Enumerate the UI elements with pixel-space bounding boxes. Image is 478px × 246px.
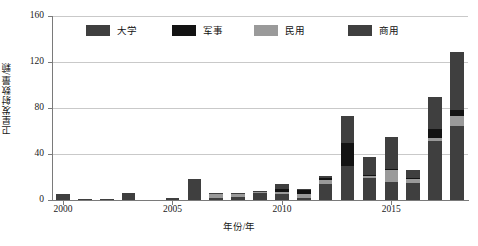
legend-label: 民用 [285,25,305,36]
bar-segment [385,182,399,200]
bar-segment [209,193,223,194]
bar-segment [253,191,267,192]
y-tick-mark [48,154,52,155]
bar-group [450,16,464,200]
bar-group [144,16,158,200]
bar-segment [188,179,202,180]
bar-group [406,16,420,200]
bar-segment [428,129,442,138]
bar-segment [450,110,464,116]
bar-segment [406,178,420,179]
bar-segment [231,194,245,196]
bar-group [231,16,245,200]
bar-segment [428,141,442,200]
bar-segment [385,169,399,170]
bar-segment [406,170,420,178]
bar-segment [209,194,223,197]
bar-segment [253,192,267,193]
bar-segment [275,192,289,194]
bar-group [209,16,223,200]
x-tick-label: 2015 [382,204,401,214]
bar-group [385,16,399,200]
x-axis-title: 年份/年 [0,219,478,233]
bar-segment [428,138,442,141]
y-tick-mark [48,16,52,17]
bar-segment [319,180,333,183]
bar-segment [385,137,399,169]
bar-group [275,16,289,200]
bar-segment [363,176,377,178]
y-tick-mark [48,108,52,109]
y-tick-mark [48,200,52,201]
bar-segment [363,157,377,174]
y-tick-label: 0 [14,195,44,205]
bar-segment [450,116,464,126]
bar-group [100,16,114,200]
bar-segment [363,178,377,200]
bar-group [363,16,377,200]
y-axis-line [52,16,53,201]
y-axis-title: 卫星发射数量/颗 [2,62,14,135]
chart-legend: 大学军事民用商用 [86,23,426,37]
bar-segment [428,97,442,129]
bar-segment [341,116,355,142]
bar-group [188,16,202,200]
legend-item[interactable]: 民用 [254,23,305,37]
bar-group [319,16,333,200]
bar-segment [122,193,136,200]
bar-segment [188,180,202,200]
x-axis-line [52,200,469,201]
x-tick-label: 2010 [272,204,291,214]
legend-swatch-icon [86,25,110,36]
legend-swatch-icon [348,25,372,36]
legend-item[interactable]: 大学 [86,23,137,37]
bar-group [56,16,70,200]
y-tick-label: 40 [14,149,44,159]
satellite-launch-stacked-bar-chart: 04080120160 2000200520102015 卫星发射数量/颗 年份… [0,0,478,246]
legend-swatch-icon [172,25,196,36]
bar-segment [450,52,464,111]
bar-segment [297,190,311,195]
y-tick-label: 120 [14,57,44,67]
bar-segment [450,126,464,200]
bar-segment [253,193,267,200]
plot-area [52,16,468,200]
bar-segment [297,189,311,190]
bar-segment [341,143,355,166]
bar-segment [319,176,333,178]
legend-label: 大学 [117,25,137,36]
bar-segment [385,170,399,182]
bar-segment [363,175,377,176]
y-tick-mark [48,62,52,63]
bar-segment [297,194,311,197]
legend-swatch-icon [254,25,278,36]
bar-group [428,16,442,200]
bar-segment [406,183,420,200]
bar-segment [319,178,333,180]
bar-group [122,16,136,200]
y-tick-label: 160 [14,11,44,21]
bar-segment [341,166,355,201]
bar-group [166,16,180,200]
legend-label: 商用 [379,25,399,36]
legend-item[interactable]: 军事 [172,23,223,37]
y-tick-label: 80 [14,103,44,113]
bar-segment [275,184,289,189]
bar-group [341,16,355,200]
bar-segment [406,179,420,182]
legend-item[interactable]: 商用 [348,23,399,37]
bar-group [78,16,92,200]
x-tick-label: 2005 [163,204,182,214]
legend-label: 军事 [203,25,223,36]
bar-segment [231,193,245,194]
bar-segment [275,189,289,192]
bar-group [253,16,267,200]
bar-group [297,16,311,200]
x-tick-label: 2000 [53,204,72,214]
bar-segment [319,184,333,200]
